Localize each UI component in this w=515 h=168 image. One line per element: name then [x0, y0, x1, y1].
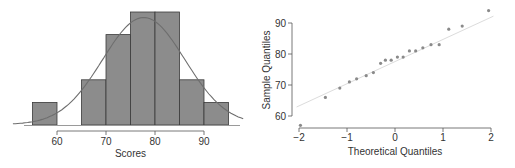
- qq-data-point: [487, 9, 490, 12]
- qq-data-point: [396, 56, 399, 59]
- qq-data-point: [372, 71, 375, 74]
- qq-data-point: [402, 56, 405, 59]
- x-axis-label: Scores: [115, 148, 146, 159]
- qq-reference-line: [297, 16, 494, 107]
- x-tick-label: 90: [198, 136, 210, 147]
- qq-data-point: [421, 46, 424, 49]
- qq-data-point: [355, 77, 358, 80]
- histogram-bar: [204, 102, 229, 125]
- qq-data-point: [338, 87, 341, 90]
- y-axis-label: Sample Quantiles: [261, 31, 272, 110]
- x-tick-label: 70: [100, 136, 112, 147]
- qq-data-point: [379, 62, 382, 65]
- histogram-bar: [155, 12, 180, 125]
- x-tick-label: 2: [488, 132, 494, 143]
- qq-data-point: [414, 49, 417, 52]
- x-tick-label: 1: [440, 132, 446, 143]
- qq-data-point: [348, 80, 351, 83]
- qq-data-point: [438, 43, 441, 46]
- histogram-bar: [82, 80, 107, 125]
- qq-data-point: [461, 25, 464, 28]
- qq-data-point: [384, 59, 387, 62]
- y-tick-label: 90: [275, 18, 287, 29]
- x-tick-label: 0: [392, 132, 398, 143]
- qq-data-point: [324, 96, 327, 99]
- qq-data-point: [365, 74, 368, 77]
- histogram-bar: [33, 102, 58, 125]
- qq-plot-panel: 60708090Sample Quantiles−2−1012Theoretic…: [260, 0, 515, 168]
- y-tick-label: 70: [275, 80, 287, 91]
- x-tick-label: −2: [293, 132, 305, 143]
- histogram-panel: 60708090Scores: [0, 0, 260, 168]
- x-tick-label: 80: [149, 136, 161, 147]
- qq-data-point: [408, 49, 411, 52]
- x-tick-label: −1: [341, 132, 353, 143]
- qq-plot-chart: 60708090Sample Quantiles−2−1012Theoretic…: [260, 0, 515, 168]
- histogram-bar: [180, 80, 205, 125]
- qq-data-point: [299, 124, 302, 127]
- qq-data-point: [390, 59, 393, 62]
- x-axis-label: Theoretical Quantiles: [348, 146, 443, 157]
- histogram-chart: 60708090Scores: [0, 0, 260, 168]
- qq-data-point: [429, 43, 432, 46]
- histogram-bar: [131, 12, 156, 125]
- x-tick-label: 60: [51, 136, 63, 147]
- qq-data-point: [447, 28, 450, 31]
- y-tick-label: 80: [275, 49, 287, 60]
- y-tick-label: 60: [275, 111, 287, 122]
